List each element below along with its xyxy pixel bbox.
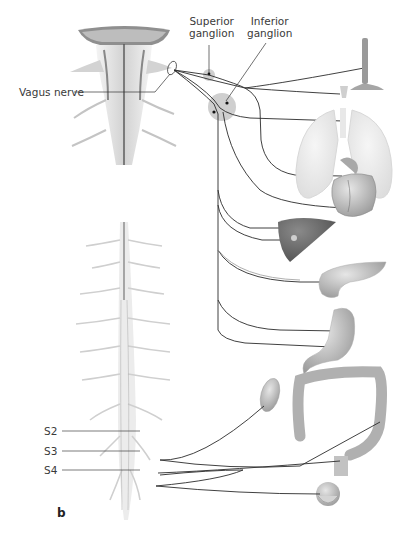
liver-organ: [278, 218, 336, 262]
esophagus-organ: [350, 38, 384, 90]
vagus-nerve-diagram: [0, 0, 416, 555]
larynx-organ: [340, 86, 348, 98]
superior-ganglion-label-line2: ganglion: [189, 27, 234, 39]
vagus-nerve-label: Vagus nerve: [19, 86, 84, 98]
inferior-ganglion: [208, 93, 236, 121]
pelvic-splanchnic-nerves: [156, 406, 380, 494]
superior-ganglion-label: Superior ganglion: [189, 15, 234, 39]
brainstem: [70, 26, 176, 165]
spinal-cord: [76, 222, 170, 520]
s2-label: S2: [44, 425, 57, 437]
rectum-organ: [334, 456, 348, 476]
s4-label: S4: [44, 464, 57, 476]
panel-letter: b: [57, 506, 66, 520]
inferior-ganglion-label-line2: ganglion: [247, 27, 292, 39]
superior-ganglion-label-line1: Superior: [189, 15, 234, 27]
s3-label: S3: [44, 445, 57, 457]
pancreas-organ: [319, 262, 386, 298]
inferior-ganglion-label-line1: Inferior: [247, 15, 292, 27]
kidney-organ: [257, 376, 283, 414]
colon-organ: [298, 372, 382, 455]
stomach-organ: [303, 308, 355, 374]
inferior-ganglion-label: Inferior ganglion: [247, 15, 292, 39]
